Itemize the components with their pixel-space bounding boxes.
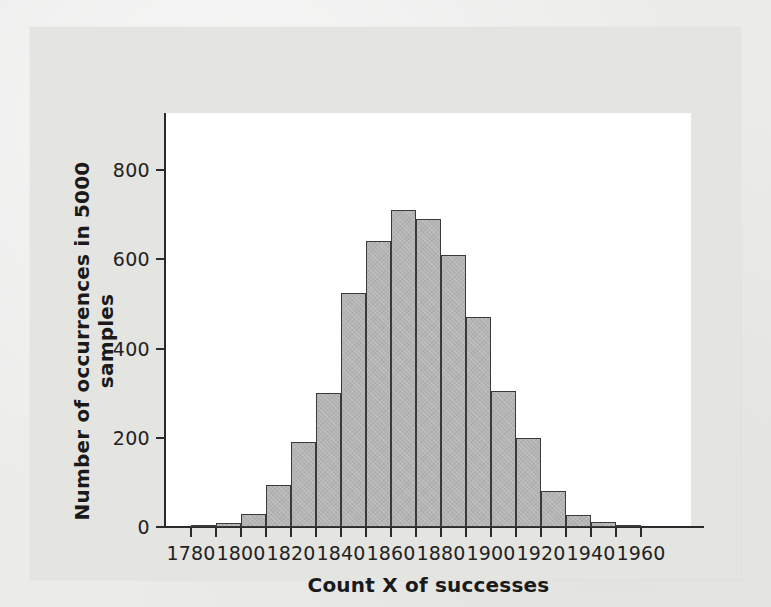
- histogram-bar: [291, 442, 316, 527]
- histogram-bar: [516, 438, 541, 527]
- histogram-bar: [266, 485, 291, 527]
- x-axis-tick: [640, 527, 642, 537]
- x-axis-tick: [590, 527, 592, 537]
- y-axis-line: [164, 113, 166, 528]
- x-axis-tick: [490, 527, 492, 537]
- x-axis-minor-tick: [265, 527, 267, 537]
- histogram-bar: [216, 523, 241, 527]
- x-axis-tick: [540, 527, 542, 537]
- histogram-bar: [416, 219, 441, 527]
- x-axis-minor-tick: [315, 527, 317, 537]
- x-axis-tick-label: 1960: [609, 542, 673, 564]
- x-axis-tick: [190, 527, 192, 537]
- histogram-bar: [491, 391, 516, 527]
- x-axis-tick: [390, 527, 392, 537]
- x-axis-tick: [290, 527, 292, 537]
- x-axis-tick: [240, 527, 242, 537]
- histogram-bar: [341, 293, 366, 527]
- x-axis-minor-tick: [215, 527, 217, 537]
- y-axis-tick: [156, 258, 165, 260]
- histogram-bar: [566, 515, 591, 527]
- histogram-bar: [191, 525, 216, 527]
- histogram-bar: [316, 393, 341, 527]
- y-axis-tick: [156, 526, 165, 528]
- figure-page: 0200400600800178018001820184018601880190…: [0, 0, 771, 607]
- histogram-bar: [616, 525, 641, 527]
- y-axis-tick: [156, 169, 165, 171]
- histogram-bar: [466, 317, 491, 527]
- histogram-bar: [591, 522, 616, 527]
- x-axis-minor-tick: [615, 527, 617, 537]
- y-axis-title: Number of occurrences in 5000 samples: [70, 131, 118, 551]
- x-axis-tick: [340, 527, 342, 537]
- y-axis-tick: [156, 348, 165, 350]
- x-axis-minor-tick: [365, 527, 367, 537]
- x-axis-title: Count X of successes: [166, 573, 691, 597]
- x-axis-minor-tick: [415, 527, 417, 537]
- histogram-bar: [391, 210, 416, 527]
- y-axis-tick: [156, 437, 165, 439]
- histogram-bar: [441, 255, 466, 527]
- x-axis-tick: [440, 527, 442, 537]
- x-axis-minor-tick: [515, 527, 517, 537]
- histogram-bar: [541, 491, 566, 527]
- x-axis-minor-tick: [465, 527, 467, 537]
- histogram-bar: [241, 514, 266, 527]
- figure-mat: 0200400600800178018001820184018601880190…: [30, 27, 741, 580]
- histogram-bar: [366, 241, 391, 527]
- x-axis-minor-tick: [565, 527, 567, 537]
